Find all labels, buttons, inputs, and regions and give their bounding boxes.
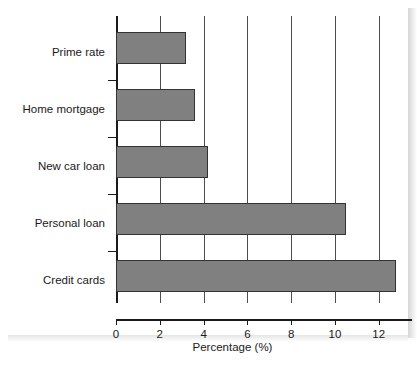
xtick-label-12: 12 — [364, 328, 394, 341]
xtick-label-6: 6 — [232, 328, 262, 341]
category-tick-2 — [108, 137, 116, 138]
xtick-mark-8 — [291, 319, 292, 325]
bar-personal-loan — [116, 203, 346, 235]
category-axis-labels: Prime rate Home mortgage New car loan Pe… — [0, 0, 109, 368]
xtick-label-4: 4 — [189, 328, 219, 341]
xtick-label-10: 10 — [320, 328, 350, 341]
category-tick-4 — [108, 251, 116, 252]
xtick-mark-4 — [204, 319, 205, 325]
bar-home-mortgage — [116, 89, 195, 121]
bar-chart-figure: Prime rate Home mortgage New car loan Pe… — [0, 0, 417, 368]
x-axis-title: Percentage (%) — [0, 341, 417, 353]
category-label-credit-cards: Credit cards — [0, 274, 105, 286]
category-label-prime-rate: Prime rate — [0, 46, 105, 58]
bar-prime-rate — [116, 32, 186, 64]
category-tick-3 — [108, 194, 116, 195]
xtick-mark-2 — [160, 319, 161, 325]
x-axis-title-text: Percentage (%) — [145, 341, 273, 353]
xtick-label-0: 0 — [101, 328, 131, 341]
xtick-mark-0 — [116, 319, 117, 325]
xtick-mark-10 — [335, 319, 336, 325]
bar-new-car-loan — [116, 146, 208, 178]
category-label-home-mortgage: Home mortgage — [0, 103, 105, 115]
plot-area: 0 2 4 6 8 10 12 — [116, 16, 416, 303]
category-label-new-car-loan: New car loan — [0, 160, 105, 172]
category-tick-1 — [108, 80, 116, 81]
xtick-mark-12 — [379, 319, 380, 325]
xtick-label-2: 2 — [145, 328, 175, 341]
bar-credit-cards — [116, 260, 396, 292]
category-label-personal-loan: Personal loan — [0, 217, 105, 229]
xtick-mark-6 — [247, 319, 248, 325]
xtick-label-8: 8 — [276, 328, 306, 341]
